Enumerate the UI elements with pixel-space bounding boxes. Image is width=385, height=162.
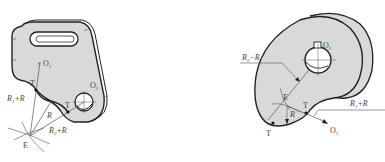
label-t-left: T [266, 129, 271, 138]
tangent-point-lower [66, 110, 69, 113]
label-e: E [23, 141, 28, 150]
label-o1: O1 [330, 126, 339, 136]
label-r2-minus-r: R2−R [241, 53, 260, 63]
label-r1-plus-r: R1+R [6, 94, 25, 104]
label-r2-plus-r: R2+R [48, 126, 67, 136]
label-t-lower: T [65, 101, 70, 110]
left-diagram: × O1 O2 T T R1+R R R2+R E [6, 20, 107, 152]
slot-outer [30, 32, 78, 46]
label-e: E [283, 93, 288, 102]
label-t-right: T [303, 101, 308, 110]
cam-front-face [255, 16, 363, 126]
label-t-upper: T [30, 79, 35, 88]
label-r1-plus-r: R1+R [349, 99, 368, 109]
construction-arc-1 [8, 128, 50, 144]
tangent-point-left [271, 121, 274, 124]
figure-canvas: × O1 O2 T T R1+R R R2+R E O2 [0, 0, 385, 162]
right-diagram: O2 R2−R E R O1 R1+R T T [240, 13, 385, 138]
label-r: R [289, 110, 295, 119]
keyway [314, 42, 321, 48]
tangent-point-upper [34, 88, 37, 91]
tangent-point-right [304, 111, 307, 114]
label-r: R [46, 111, 52, 120]
